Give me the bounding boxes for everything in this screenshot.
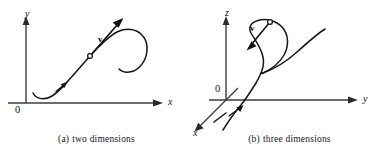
space-curve-3d: [223, 20, 325, 130]
origin-label-3d: 0: [215, 84, 220, 95]
caption-two-dimensions: (a)two dimensions: [0, 134, 193, 144]
tangent-vector-arrow-2d: [90, 18, 124, 56]
figure-container: y x 0 v (a)two dimensions: [0, 0, 386, 158]
panel-two-dimensions: y x 0 v (a)two dimensions: [0, 0, 193, 158]
caption-three-dimensions: (b)three dimensions: [193, 134, 386, 144]
caption-text-b: three dimensions: [263, 134, 331, 144]
vector-label-v-2d: v: [98, 35, 103, 44]
x-axis-line-2d: [8, 100, 163, 107]
space-curve-2d: [33, 29, 147, 98]
z-axis-line-3d: [223, 16, 230, 100]
point-marker-open-circle-2d: [88, 54, 93, 59]
x-axis-line-3d: [195, 88, 239, 132]
axis-label-y-2d: y: [25, 9, 29, 19]
direction-marker-2d: [56, 82, 68, 92]
direction-marker-3d: [229, 105, 244, 116]
panel-three-dimensions: z y x 0 v (b)three dimensions: [193, 0, 386, 158]
caption-tag-a: (a): [58, 134, 69, 144]
point-marker-open-circle-3d: [268, 20, 273, 25]
caption-tag-b: (b): [248, 134, 260, 144]
vector-label-v-3d: v: [250, 24, 255, 33]
y-axis-line-2d: [23, 16, 30, 103]
axis-label-x-2d: x: [168, 97, 172, 107]
axis-label-z-3d: z: [225, 8, 229, 18]
origin-label-2d: 0: [15, 105, 20, 116]
caption-text-a: two dimensions: [72, 134, 135, 144]
axis-label-y-3d: y: [363, 94, 367, 104]
hidden-segment-dash-3d: [214, 113, 226, 122]
y-axis-line-3d: [209, 97, 358, 104]
